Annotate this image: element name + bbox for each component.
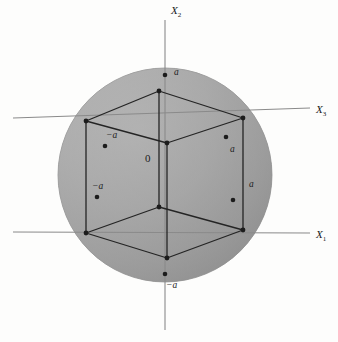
marker-x2-positive-dot <box>163 73 168 78</box>
axis-label-x2: X2 <box>170 4 182 19</box>
marker-x1-negative-dot <box>95 195 100 200</box>
label-marker-x2-negative: −a <box>166 280 177 290</box>
label-marker-x1-positive: a <box>249 179 254 189</box>
axis-label-x1-subscript: 1 <box>323 235 327 243</box>
figure-canvas: X2 X3 X1 0 a −a −a a −a a <box>0 0 338 342</box>
axis-label-x1: X1 <box>315 228 327 243</box>
cube-vertex-top-left <box>84 119 89 124</box>
label-marker-x3-negative: −a <box>106 130 117 140</box>
label-marker-x2-positive: a <box>174 67 179 77</box>
marker-x3-negative-dot <box>103 144 108 149</box>
marker-x1-positive-dot <box>231 198 236 203</box>
marker-x2-negative-dot <box>163 272 168 277</box>
label-marker-x1-negative: −a <box>92 181 103 191</box>
x1-axis <box>13 232 310 233</box>
cube-vertex-bottom-left <box>84 231 89 236</box>
cube-vertex-bottom-back <box>157 205 162 210</box>
diagram-svg: X2 X3 X1 0 a −a −a a −a a <box>0 0 338 342</box>
origin-label: 0 <box>145 152 151 164</box>
cube-vertex-top-back <box>157 89 162 94</box>
axis-label-x3: X3 <box>315 103 327 118</box>
cube-vertex-bottom-right <box>241 228 246 233</box>
axis-label-x2-subscript: 2 <box>178 11 182 19</box>
cube-vertex-top-front <box>165 141 170 146</box>
cube-vertex-bottom-front <box>165 256 170 261</box>
marker-x3-positive-dot <box>224 135 229 140</box>
cube-vertex-top-right <box>241 116 246 121</box>
label-marker-x3-positive: a <box>230 144 235 154</box>
axis-label-x3-subscript: 3 <box>323 110 327 118</box>
